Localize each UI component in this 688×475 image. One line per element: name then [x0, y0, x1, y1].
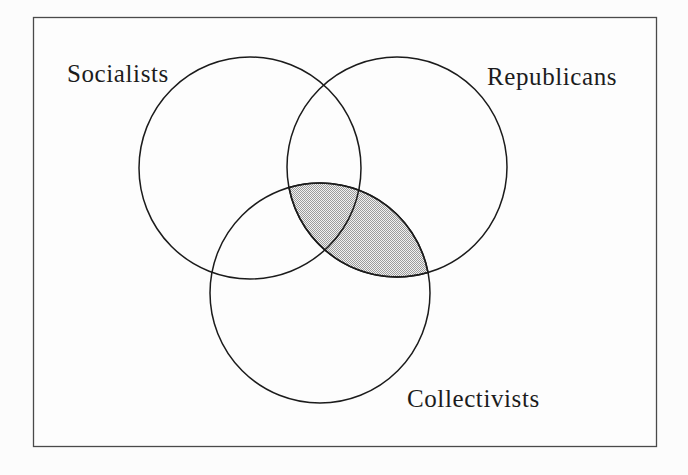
republicans-label: Republicans [487, 63, 617, 90]
scanned-page: Socialists Republicans Collectivists [0, 0, 688, 475]
socialists-label: Socialists [67, 60, 169, 87]
venn-diagram: Socialists Republicans Collectivists [0, 0, 688, 475]
collectivists-label: Collectivists [407, 385, 540, 412]
